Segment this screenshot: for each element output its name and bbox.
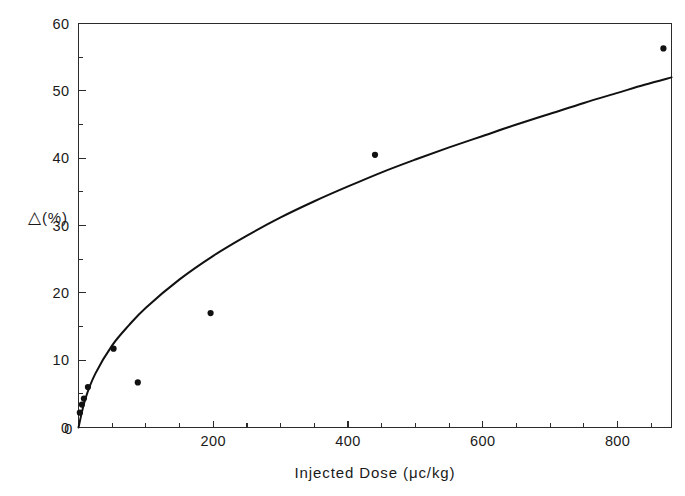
x-tick-label: 600 <box>470 433 495 449</box>
data-point <box>81 395 87 401</box>
data-point <box>135 379 141 385</box>
x-tick-label: 800 <box>605 433 630 449</box>
y-tick-label: 50 <box>53 83 70 99</box>
x-axis-minor-ticks <box>112 423 651 428</box>
x-tick-label: 0 <box>64 421 72 437</box>
y-tick-label: 20 <box>53 285 70 301</box>
x-axis-title: Injected Dose (μc/kg) <box>295 464 456 481</box>
data-point <box>660 45 666 51</box>
data-point <box>207 310 213 316</box>
y-tick-label: 40 <box>53 150 70 166</box>
y-tick-label: 60 <box>53 16 70 32</box>
fitted-curve <box>79 77 672 427</box>
y-tick-label: 10 <box>53 352 70 368</box>
data-point <box>110 346 116 352</box>
plot-frame <box>79 24 672 428</box>
y-axis-major-ticks <box>79 24 86 428</box>
figure-container: 0102030405060 0200400600800 △(%) Injecte… <box>0 0 685 496</box>
y-axis-title: △(%) <box>28 208 68 227</box>
scatter-plot: 0102030405060 0200400600800 △(%) Injecte… <box>0 0 685 496</box>
data-point <box>77 410 83 416</box>
data-point <box>372 152 378 158</box>
x-tick-label: 400 <box>335 433 360 449</box>
data-point <box>85 384 91 390</box>
data-points-group <box>77 45 667 415</box>
x-axis-tick-labels: 0200400600800 <box>64 421 630 449</box>
data-point <box>79 402 85 408</box>
delta-symbol: △ <box>28 208 42 227</box>
x-tick-label: 200 <box>201 433 226 449</box>
y-axis-unit: (%) <box>42 209 68 226</box>
